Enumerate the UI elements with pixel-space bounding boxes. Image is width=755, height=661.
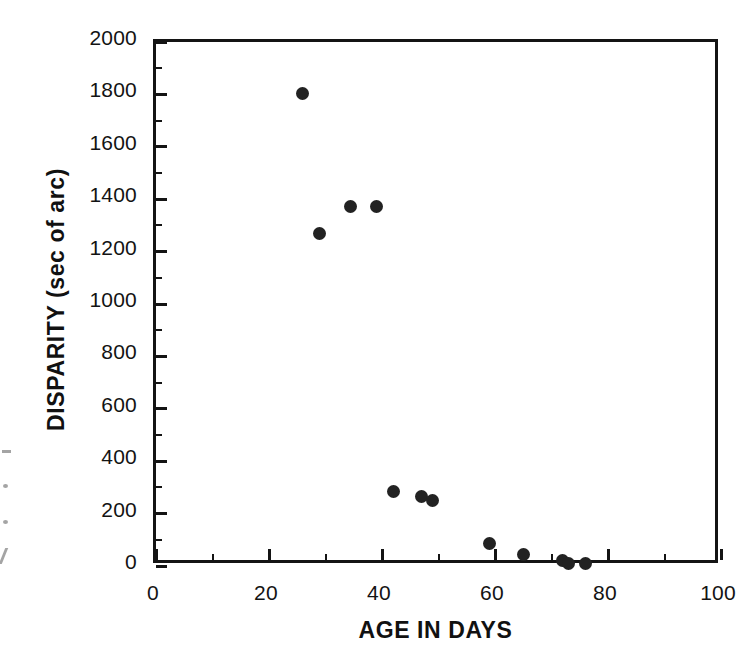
y-tick-minor: [156, 67, 162, 69]
scatter-plot-figure: 0200400600800100012001400160018002000 02…: [0, 0, 755, 661]
data-point: [517, 548, 530, 561]
y-tick-major: [156, 41, 167, 44]
data-point: [426, 494, 439, 507]
y-tick-major: [156, 198, 167, 201]
y-tick-major: [156, 512, 167, 515]
x-tick-minor: [212, 554, 214, 560]
x-tick-major: [720, 549, 723, 560]
data-point: [562, 557, 575, 570]
x-tick-major: [268, 549, 271, 560]
x-tick-label: 100: [673, 581, 755, 605]
data-point: [296, 87, 309, 100]
x-tick-label: 20: [221, 581, 311, 605]
y-tick-minor: [156, 486, 162, 488]
data-point: [370, 200, 383, 213]
y-tick-minor: [156, 224, 162, 226]
x-tick-label: 80: [560, 581, 650, 605]
y-tick-major: [156, 145, 167, 148]
y-tick-major: [156, 355, 167, 358]
x-tick-label: 60: [447, 581, 537, 605]
data-point: [387, 485, 400, 498]
y-tick-minor: [156, 172, 162, 174]
y-tick-major: [156, 407, 167, 410]
x-tick-minor: [551, 554, 553, 560]
y-axis-title: DISPARITY (sec of arc): [43, 40, 70, 560]
y-tick-minor: [156, 277, 162, 279]
x-tick-label: 40: [334, 581, 424, 605]
x-tick-minor: [664, 554, 666, 560]
x-tick-major: [607, 549, 610, 560]
data-point: [344, 200, 357, 213]
x-tick-minor: [325, 554, 327, 560]
y-tick-major: [156, 460, 167, 463]
plot-area: [153, 39, 718, 563]
y-tick-minor: [156, 539, 162, 541]
data-point: [313, 227, 326, 240]
y-tick-major: [156, 565, 167, 568]
scan-edge-artifact: [0, 448, 16, 578]
x-tick-minor: [438, 554, 440, 560]
x-tick-label: 0: [108, 581, 198, 605]
y-tick-minor: [156, 329, 162, 331]
y-tick-minor: [156, 434, 162, 436]
y-tick-major: [156, 93, 167, 96]
x-tick-major: [381, 549, 384, 560]
y-tick-major: [156, 250, 167, 253]
y-tick-major: [156, 303, 167, 306]
x-tick-major: [494, 549, 497, 560]
data-point: [579, 557, 592, 570]
data-point: [483, 537, 496, 550]
x-axis-title: AGE IN DAYS: [153, 617, 718, 644]
y-tick-minor: [156, 120, 162, 122]
y-tick-minor: [156, 382, 162, 384]
x-tick-major: [155, 549, 158, 560]
